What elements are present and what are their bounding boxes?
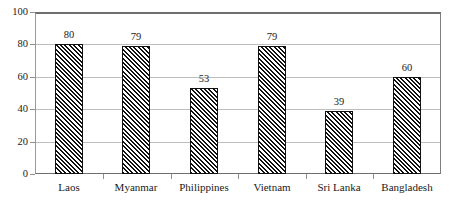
bar-value-sri-lanka: 39 — [319, 97, 359, 108]
x-axis-label-sri-lanka: Sri Lanka — [304, 182, 374, 193]
bar-chart: 100 80 60 40 20 0 80 79 53 79 39 60 Laos… — [0, 0, 456, 205]
bar-myanmar — [122, 46, 150, 174]
bar-sri-lanka — [325, 111, 353, 174]
bar-value-bangladesh: 60 — [387, 63, 427, 74]
bar-vietnam — [258, 46, 286, 174]
bar-laos — [55, 44, 83, 174]
bar-philippines — [190, 88, 218, 174]
bar-value-myanmar: 79 — [116, 32, 156, 43]
x-axis-label-myanmar: Myanmar — [101, 182, 171, 193]
x-axis-label-vietnam: Vietnam — [237, 182, 307, 193]
x-axis-label-laos: Laos — [39, 182, 99, 193]
bar-bangladesh — [393, 77, 421, 174]
x-axis-label-philippines: Philippines — [169, 182, 239, 193]
bar-value-philippines: 53 — [184, 74, 224, 85]
bar-value-vietnam: 79 — [252, 32, 292, 43]
x-axis-label-bangladesh: Bangladesh — [372, 182, 442, 193]
bar-value-laos: 80 — [49, 30, 89, 41]
